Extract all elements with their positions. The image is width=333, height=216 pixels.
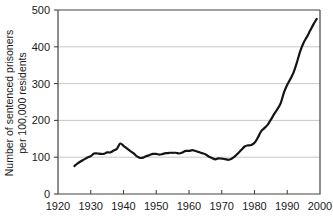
y-axis-title-line2: per 100,000 residents xyxy=(16,52,28,154)
x-tick-label-1980: 1980 xyxy=(242,200,266,212)
gridlines xyxy=(58,10,320,157)
x-tick-label-1920: 1920 xyxy=(46,200,70,212)
y-tick-label-100: 100 xyxy=(32,151,50,163)
x-tick-label-1930: 1930 xyxy=(79,200,103,212)
y-tick-label-500: 500 xyxy=(32,4,50,16)
y-tick-label-0: 0 xyxy=(44,188,50,200)
x-tick-label-1970: 1970 xyxy=(210,200,234,212)
x-axis-tick-labels: 192019301940195019601970198019902000 xyxy=(46,200,332,212)
x-tick-label-1990: 1990 xyxy=(275,200,299,212)
x-tick-label-1950: 1950 xyxy=(144,200,168,212)
y-tick-label-300: 300 xyxy=(32,78,50,90)
x-tick-label-1940: 1940 xyxy=(111,200,135,212)
y-tick-label-200: 200 xyxy=(32,114,50,126)
y-axis-tick-labels: 0100200300400500 xyxy=(32,4,50,200)
x-tick-label-2000: 2000 xyxy=(308,200,332,212)
chart-container: 0100200300400500 19201930194019501960197… xyxy=(0,0,333,216)
y-tick-label-400: 400 xyxy=(32,41,50,53)
x-tick-label-1960: 1960 xyxy=(177,200,201,212)
y-axis-title: Number of sentenced prisoners per 100,00… xyxy=(3,30,28,177)
data-series-line xyxy=(74,19,316,166)
line-chart: 0100200300400500 19201930194019501960197… xyxy=(0,0,333,216)
y-axis-title-line1: Number of sentenced prisoners xyxy=(3,30,15,177)
